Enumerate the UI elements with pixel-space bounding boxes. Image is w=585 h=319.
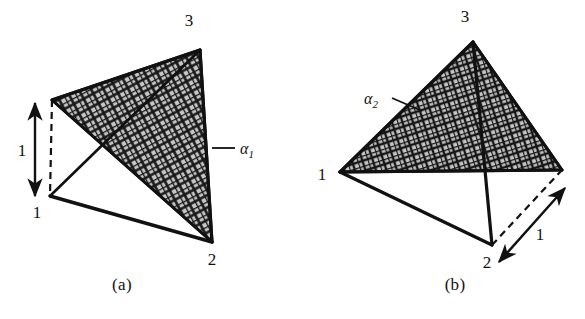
vertex-label-b-2: 2	[483, 253, 492, 272]
panel-b: 1 2 3 1 α2 (b)	[318, 7, 565, 294]
caption-a: (a)	[112, 275, 132, 294]
panel-a: 1 2 3 1 α1 (a)	[18, 11, 254, 294]
vertex-label-b-1: 1	[318, 165, 327, 184]
dashed-guide-a	[50, 100, 52, 196]
dimension-label-b: 1	[536, 225, 545, 244]
vertex-label-b-3: 3	[461, 7, 470, 26]
plane-label-alpha1: α1	[240, 140, 254, 160]
dimension-arrow-b	[499, 188, 565, 262]
alpha1-subscript: 1	[248, 148, 254, 160]
edge-b-1	[340, 172, 492, 245]
figure-root: 1 2 3 1 α1 (a) 1	[0, 0, 585, 319]
vertex-label-a-1: 1	[33, 203, 42, 222]
plane-alpha1-fill	[52, 50, 212, 242]
vertex-label-a-3: 3	[185, 11, 194, 30]
vertex-label-a-2: 2	[208, 250, 217, 269]
plane-label-alpha2: α2	[364, 90, 378, 110]
edge-b-5	[340, 170, 562, 172]
alpha2-subscript: 2	[372, 98, 378, 110]
caption-b: (b)	[445, 275, 466, 294]
dimension-label-a: 1	[18, 141, 27, 160]
dashed-guide-b	[492, 170, 562, 245]
figure-canvas: 1 2 3 1 α1 (a) 1	[0, 0, 585, 319]
